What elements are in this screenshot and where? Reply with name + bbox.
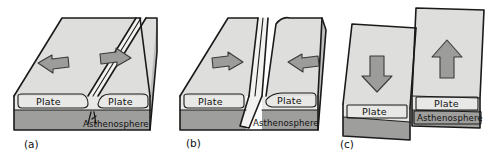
panel-c-plate-right-label: Plate [434,98,459,109]
plate-boundary-figure: Plate Plate Asthenosphere (a) [0,0,498,157]
panel-b-asthenosphere-label: Asthenosphere [253,118,319,128]
panel-b-left-asthenosphere-face [180,110,246,130]
panel-a-left-asthenosphere-face [14,110,92,130]
panel-a-caption: (a) [24,138,39,150]
panel-a-asthenosphere-label: Asthenosphere [83,119,149,129]
panel-c-asthenosphere-label: Asthenosphere [417,113,483,123]
panel-c: Plate Plate Asthenosphere (c) [340,8,484,150]
panel-a-plate-left-label: Plate [36,96,61,107]
panel-b: Plate Plate Asthenosphere (b) [180,18,326,149]
panel-a-plate-right-label: Plate [108,96,133,107]
panel-b-plate-right-label: Plate [277,95,302,106]
panel-b-plate-left-label: Plate [198,96,223,107]
figure-canvas: Plate Plate Asthenosphere (a) [0,0,498,157]
panel-b-caption: (b) [186,137,201,149]
panel-c-plate-left-label: Plate [362,106,387,117]
panel-a: Plate Plate Asthenosphere (a) [14,18,157,150]
panel-c-caption: (c) [340,138,354,150]
